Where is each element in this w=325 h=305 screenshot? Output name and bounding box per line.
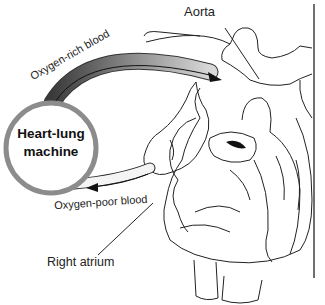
right-atrium-pointer-line: [98, 203, 153, 255]
aorta-shape: [144, 28, 312, 118]
right-atrium-shape: [144, 82, 209, 175]
heart-lung-machine-label: Heart-lung machine: [6, 125, 96, 161]
label-right-atrium: Right atrium: [47, 255, 114, 269]
oxygen-rich-tube: [52, 61, 210, 103]
heart-body: [164, 88, 312, 263]
machine-label-line2: machine: [6, 143, 96, 161]
machine-label-line1: Heart-lung: [6, 125, 96, 143]
label-aorta: Aorta: [184, 4, 215, 19]
vena-cava: [194, 260, 262, 303]
vessel-opening: [226, 141, 246, 149]
aorta-pointer-line: [225, 28, 259, 79]
heart-lung-diagram: Aorta Oxygen-rich blood Oxygen-poor bloo…: [0, 0, 325, 305]
